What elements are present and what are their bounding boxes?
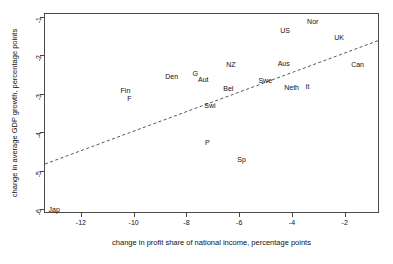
data-point-label: NZ bbox=[226, 61, 235, 69]
scatter-plot-figure: JapFinFDenGAutSwiPNZBelSpSweAusUSNethItN… bbox=[0, 0, 393, 264]
x-tick-label: -10 bbox=[129, 219, 139, 226]
y-tick-label: -4 bbox=[35, 132, 42, 138]
x-tick-label: -2 bbox=[342, 219, 348, 226]
data-point-label: Fin bbox=[121, 87, 131, 95]
y-axis-title: change in average GDP growth, percentage… bbox=[10, 13, 24, 213]
x-tick-mark bbox=[292, 213, 293, 217]
data-point-label: US bbox=[280, 27, 290, 35]
data-point-label: F bbox=[127, 95, 131, 103]
data-point-label: P bbox=[205, 139, 210, 147]
x-tick-label: -6 bbox=[236, 219, 242, 226]
y-tick-label: -3 bbox=[35, 94, 42, 100]
data-point-label: Sp bbox=[237, 156, 246, 164]
data-point-label: Jap bbox=[49, 206, 60, 214]
x-tick-label: -4 bbox=[289, 219, 295, 226]
y-tick-label: -2 bbox=[35, 55, 42, 61]
data-point-label: It bbox=[306, 83, 310, 91]
data-point-label: Aus bbox=[278, 60, 290, 68]
x-tick-mark bbox=[81, 213, 82, 217]
data-point-label: Aut bbox=[198, 76, 209, 84]
plot-area: JapFinFDenGAutSwiPNZBelSpSweAusUSNethItN… bbox=[44, 13, 379, 213]
x-tick-label: -12 bbox=[76, 219, 86, 226]
data-point-label: Swe bbox=[258, 77, 272, 85]
y-tick-label: -6 bbox=[35, 209, 42, 215]
trend-line bbox=[45, 14, 380, 214]
data-point-label: Can bbox=[351, 61, 364, 69]
x-tick-label: -8 bbox=[183, 219, 189, 226]
data-point-label: Swi bbox=[204, 102, 215, 110]
data-point-label: Den bbox=[165, 73, 178, 81]
y-tick-label: -1 bbox=[35, 17, 42, 23]
data-point-label: Nor bbox=[307, 18, 318, 26]
x-tick-mark bbox=[345, 213, 346, 217]
x-tick-mark bbox=[239, 213, 240, 217]
data-point-label: Neth bbox=[284, 84, 299, 92]
x-axis-title: change in profit share of national incom… bbox=[44, 238, 379, 247]
y-tick-label: -5 bbox=[35, 171, 42, 177]
data-point-label: UK bbox=[334, 34, 344, 42]
x-tick-mark bbox=[186, 213, 187, 217]
x-tick-mark bbox=[134, 213, 135, 217]
data-point-label: Bel bbox=[223, 85, 233, 93]
